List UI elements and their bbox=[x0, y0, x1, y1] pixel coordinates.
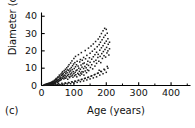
plot-area bbox=[0, 0, 195, 128]
tick-marks bbox=[42, 16, 188, 85]
data-points bbox=[43, 28, 110, 86]
scatter-chart-panel-c: Diameter (cm) Age (years) (c) 010203040 … bbox=[0, 0, 195, 128]
